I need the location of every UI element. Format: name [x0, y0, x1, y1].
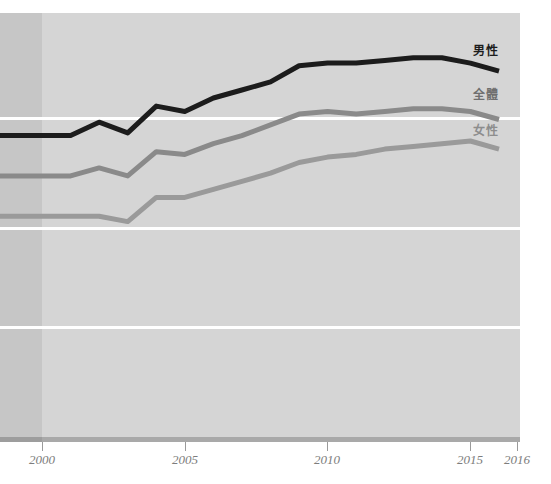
x-tick-2016: [517, 442, 518, 451]
x-tick-2005: [185, 442, 186, 451]
chart-lines-layer: [0, 0, 551, 484]
x-tick-label-2000: 2000: [29, 452, 55, 468]
x-tick-label-2016: 2016: [504, 452, 530, 468]
x-tick-label-2015: 2015: [457, 452, 483, 468]
x-tick-label-2010: 2010: [314, 452, 340, 468]
series-line-female: [0, 141, 499, 222]
series-line-total: [0, 109, 499, 176]
series-line-male: [0, 58, 499, 136]
chart-root: 男性 全體 女性 2000 2005 2010 2015 2016: [0, 0, 551, 484]
x-tick-2010: [327, 442, 328, 451]
x-tick-2015: [470, 442, 471, 451]
legend-label-male: 男性: [473, 41, 498, 58]
x-axis-bar: [0, 437, 520, 442]
legend-label-total: 全體: [473, 85, 498, 102]
x-axis-bar-pre2000: [0, 437, 42, 442]
x-tick-label-2005: 2005: [172, 452, 198, 468]
legend-label-female: 女性: [473, 121, 498, 138]
x-tick-2000: [42, 442, 43, 451]
